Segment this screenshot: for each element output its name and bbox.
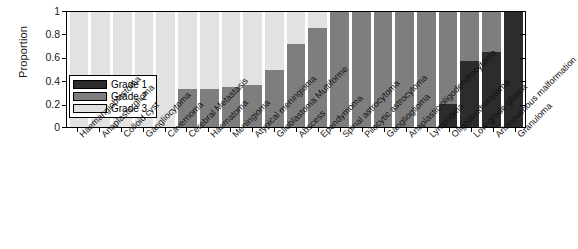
tick-mark [520,34,525,35]
legend-swatch-grade-1 [73,80,107,89]
y-tick-label: 0.2 [34,99,60,110]
legend-swatch-grade-2 [73,92,107,101]
tick-mark [520,58,525,59]
bar-segment-grade-3 [243,12,262,85]
bar-segment-grade-3 [265,12,284,70]
y-axis-title: Proportion [17,12,29,92]
y-tick-label: 0.6 [34,52,60,63]
y-tick-label: 0.4 [34,76,60,87]
y-axis-tick-labels: 1 0.8 0.6 0.4 0.2 0 [34,0,60,132]
bar-segment-grade-3 [308,12,327,28]
bar-segment-grade-3 [200,12,219,89]
bar-segment-grade-3 [222,12,241,87]
y-tick-label: 1 [34,6,60,17]
bar-segment-grade-3 [287,12,306,44]
bar-segment-grade-3 [178,12,197,89]
y-tick-label: 0.8 [34,29,60,40]
x-axis-tick-labels: HaemangioblastomaAnaplastic gliomaColloi… [0,128,553,249]
bar-segment-grade-2 [460,12,479,61]
bar-segment-grade-2 [482,12,501,52]
